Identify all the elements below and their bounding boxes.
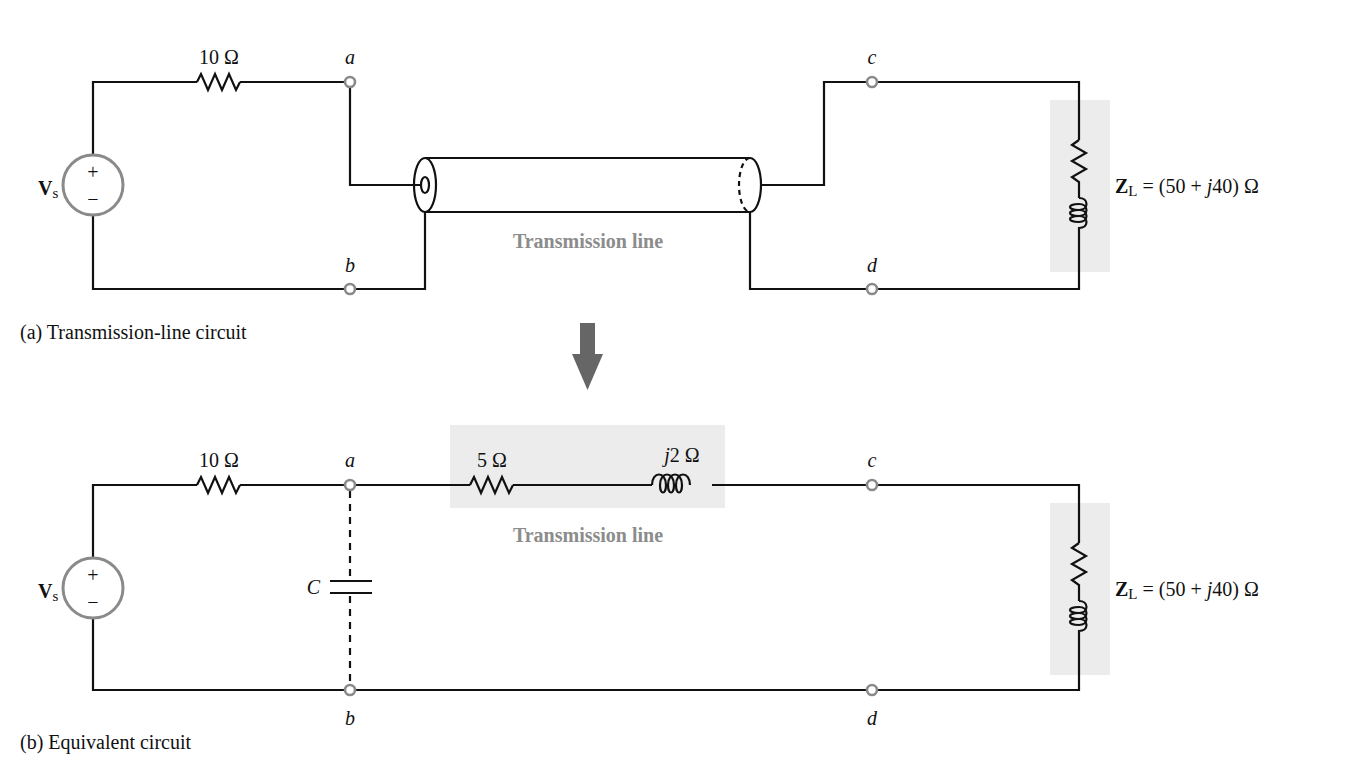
load-impedance-label: ZL = (50 + j40) Ω [1115,578,1259,602]
load-impedance-label: ZL = (50 + j40) Ω [1115,175,1259,199]
wire [750,212,866,289]
node-label-a: a [345,449,355,471]
node-label-b: b [345,254,355,276]
resistor-label: 10 Ω [199,46,239,68]
wire [93,485,197,558]
terminal-d [867,685,877,695]
source-minus: − [87,591,98,613]
capacitor-icon [330,581,372,593]
transmission-line-label: Transmission line [513,230,663,252]
wire [350,88,422,185]
caption-b: (b) Equivalent circuit [20,731,191,754]
terminal-a [345,77,355,87]
wire [878,82,1079,140]
node-label-d: d [867,707,878,729]
caption-a: (a) Transmission-line circuit [20,321,247,344]
resistor-10-ohm-icon [197,74,240,90]
down-arrow-icon [572,323,603,390]
wire [93,618,344,690]
circuit-diagram: + − Vs 10 Ω a b c d Transmission line ZL… [0,0,1362,769]
resistor-label: 10 Ω [199,449,239,471]
node-label-a: a [345,46,355,68]
node-label-c: c [868,449,877,471]
node-label-d: d [867,254,878,276]
line-resistor-label: 5 Ω [477,449,507,471]
wire [878,648,1079,690]
node-label-b: b [345,707,355,729]
source-plus: + [87,564,98,586]
node-label-c: c [868,46,877,68]
wire [761,82,866,185]
transmission-line-label: Transmission line [513,524,663,546]
wire [93,82,197,155]
source-label: Vs [38,580,58,604]
terminal-d [867,284,877,294]
line-inductor-label: j2 Ω [661,444,699,467]
source-minus: − [87,188,98,210]
terminal-b [345,685,355,695]
source-plus: + [87,161,98,183]
coaxial-cable-icon [414,158,761,212]
wire [878,245,1079,289]
terminal-c [867,480,877,490]
figure-a-transmission-line-circuit: + − Vs 10 Ω a b c d Transmission line ZL… [20,46,1259,344]
wire [93,215,344,289]
terminal-b [345,284,355,294]
source-label: Vs [38,177,58,201]
figure-b-equivalent-circuit: C + − Vs 10 Ω 5 Ω j2 Ω a b c d Transmiss… [20,425,1259,754]
resistor-10-ohm-icon [197,477,240,493]
terminal-a [345,480,355,490]
capacitor-label: C [307,576,321,598]
wire [356,212,425,289]
wire [878,485,1079,543]
terminal-c [867,77,877,87]
